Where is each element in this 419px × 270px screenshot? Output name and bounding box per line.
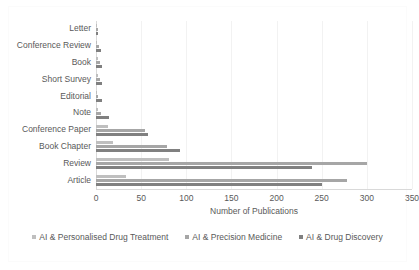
bar: [96, 78, 100, 81]
x-tick-label: 300: [360, 193, 374, 203]
bar: [96, 95, 98, 98]
bar: [96, 65, 102, 68]
x-tick-label: 150: [224, 193, 238, 203]
bar: [96, 116, 109, 119]
bar-group: [96, 71, 412, 88]
chart-legend: AI & Personalised Drug TreatmentAI & Pre…: [9, 232, 406, 242]
bar: [96, 162, 367, 165]
category-label: Short Survey: [42, 75, 91, 84]
legend-label: AI & Precision Medicine: [192, 232, 282, 242]
bar: [96, 179, 347, 182]
bar: [96, 61, 100, 64]
category-label: Article: [67, 176, 91, 185]
bar: [96, 45, 99, 48]
bar: [96, 133, 148, 136]
bar-group: [96, 155, 412, 172]
bar: [96, 49, 101, 52]
chart-container: Number of Publications AI & Personalised…: [8, 6, 407, 262]
bar: [96, 74, 98, 77]
legend-swatch-icon: [299, 235, 303, 239]
bar-group: [96, 88, 412, 105]
x-tick-label: 200: [269, 193, 283, 203]
x-tick-label: 0: [94, 193, 99, 203]
legend-item[interactable]: AI & Personalised Drug Treatment: [32, 232, 168, 242]
x-tick-label: 100: [179, 193, 193, 203]
bar-group: [96, 172, 412, 189]
bar: [96, 183, 322, 186]
bar-group: [96, 122, 412, 139]
x-axis-line: [96, 189, 412, 190]
bar: [96, 129, 145, 132]
bar: [96, 175, 126, 178]
category-label: Review: [63, 159, 91, 168]
bar: [96, 28, 98, 31]
legend-item[interactable]: AI & Precision Medicine: [185, 232, 282, 242]
bar: [96, 108, 98, 111]
legend-swatch-icon: [32, 235, 36, 239]
bar: [96, 166, 312, 169]
legend-item[interactable]: AI & Drug Discovery: [299, 232, 383, 242]
category-label: Book Chapter: [39, 142, 91, 151]
category-label: Book: [72, 58, 91, 67]
bar-group: [96, 105, 412, 122]
bar: [96, 141, 113, 144]
x-tick-label: 250: [315, 193, 329, 203]
bar-group: [96, 55, 412, 72]
category-label: Note: [73, 108, 91, 117]
gridline: [412, 21, 413, 189]
legend-label: AI & Personalised Drug Treatment: [39, 232, 168, 242]
category-label: Editorial: [60, 92, 91, 101]
bar: [96, 32, 98, 35]
bar: [96, 158, 169, 161]
x-tick-label: 350: [405, 193, 419, 203]
legend-swatch-icon: [185, 235, 189, 239]
bar-group: [96, 139, 412, 156]
bar: [96, 57, 98, 60]
bar-group: [96, 21, 412, 38]
bar: [96, 145, 167, 148]
bar: [96, 91, 97, 94]
x-axis-title: Number of Publications: [96, 206, 412, 216]
bar-group: [96, 38, 412, 55]
x-tick-label: 50: [136, 193, 145, 203]
bar: [96, 112, 101, 115]
bar: [96, 24, 97, 27]
category-label: Conference Paper: [22, 125, 91, 134]
bar: [96, 99, 102, 102]
bar: [96, 149, 180, 152]
legend-label: AI & Drug Discovery: [306, 232, 383, 242]
bar: [96, 125, 108, 128]
category-label: Letter: [69, 24, 91, 33]
bar: [96, 41, 97, 44]
bar: [96, 82, 102, 85]
category-label: Conference Review: [17, 41, 91, 50]
